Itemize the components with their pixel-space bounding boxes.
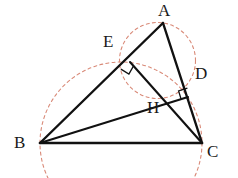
side-CA — [163, 23, 202, 143]
point-label-E: E — [103, 33, 113, 50]
point-label-D: D — [195, 65, 207, 82]
point-label-A: A — [158, 2, 170, 19]
right-angle-at-E — [121, 66, 134, 74]
point-label-H: H — [147, 99, 159, 116]
side-AB — [40, 23, 163, 143]
point-label-C: C — [207, 143, 218, 160]
geometry-figure: A B C D E H — [0, 0, 238, 178]
geometry-canvas — [0, 0, 238, 178]
point-label-B: B — [14, 134, 25, 151]
